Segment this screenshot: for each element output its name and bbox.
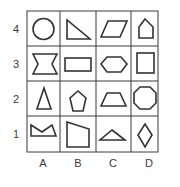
pentagon-shape-B2 (70, 91, 86, 111)
pentagon-house-shape-D4 (139, 19, 153, 38)
irregular-quadrilateral-shape-B1 (67, 122, 89, 147)
octagon-shape-D2 (134, 87, 156, 109)
col-label-D: D (139, 157, 159, 169)
square-shape-D3 (137, 53, 154, 73)
shape-grid-figure: 4 3 2 1 A B C D (0, 0, 180, 187)
hexagon-shape-C3 (101, 57, 127, 72)
col-label-A: A (33, 157, 53, 169)
row-label-3: 3 (6, 58, 26, 70)
row-label-4: 4 (6, 23, 26, 35)
notched-crown-shape-A1 (31, 125, 56, 136)
right-triangle-shape-B4 (67, 20, 90, 39)
row-label-2: 2 (6, 93, 26, 105)
circle-shape-A4 (33, 19, 54, 40)
row-label-1: 1 (6, 128, 26, 140)
rectangle-shape-B3 (65, 58, 91, 71)
trapezoid-shape-C2 (101, 93, 126, 106)
parallelogram-shape-C4 (101, 21, 127, 37)
col-label-B: B (68, 157, 88, 169)
hourglass-shape-A3 (33, 54, 57, 74)
col-label-C: C (103, 157, 123, 169)
rhombus-shape-D1 (138, 124, 152, 147)
isosceles-triangle-shape-A2 (37, 88, 51, 109)
obtuse-triangle-shape-C1 (100, 130, 125, 140)
